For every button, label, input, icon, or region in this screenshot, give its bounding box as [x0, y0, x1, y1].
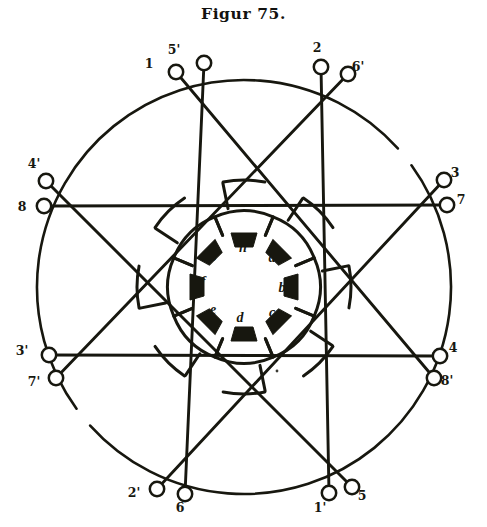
terminal-post[interactable] [150, 482, 164, 496]
pole-label: g [210, 246, 218, 261]
chord-line [44, 205, 447, 206]
chord-line [49, 355, 440, 356]
terminal-label: 8 [18, 199, 27, 214]
chord-line [321, 67, 329, 493]
coil-spoke [311, 331, 333, 345]
coil-spoke [185, 354, 199, 376]
terminal-post[interactable] [433, 349, 447, 363]
armature-winding-diagram: 15'26'4'8373'7'48'2'61'5habcdefg [0, 0, 487, 527]
terminal-label: 6 [176, 500, 185, 515]
pole-label: e [210, 302, 216, 317]
terminal-post[interactable] [437, 173, 451, 187]
pole-shoe [263, 240, 291, 268]
terminal-label: 3 [451, 165, 460, 180]
chord-lines [44, 63, 447, 494]
terminal-post[interactable] [440, 198, 454, 212]
pole-shoe [284, 274, 298, 300]
pole-label: c [269, 305, 276, 320]
pole-label: f [201, 274, 207, 289]
pole-label: b [279, 280, 286, 295]
coil-connection-arc [303, 346, 333, 376]
coil-connection-arc [303, 198, 333, 228]
terminal-post[interactable] [49, 371, 63, 385]
coil-lobe [296, 258, 321, 316]
terminal-label: 7' [28, 374, 41, 389]
terminal-post[interactable] [37, 199, 51, 213]
pole-shoe [231, 327, 257, 341]
terminal-post[interactable] [427, 371, 441, 385]
coil-lobe [215, 339, 273, 364]
terminal-label: 6' [352, 59, 365, 74]
figure-root: Figur 75. 15'26'4'8373'7'48'2'61'5habcde… [0, 0, 487, 527]
terminal-label: 4 [449, 340, 458, 355]
ink-speck [276, 370, 279, 373]
outer-circle [37, 80, 451, 494]
terminal-label: 5' [168, 42, 181, 57]
coil-lobe [215, 210, 273, 235]
coil-connection-arc [137, 266, 139, 308]
pole-label: h [239, 240, 247, 255]
terminal-label: 2' [128, 485, 141, 500]
pole-label: d [237, 310, 245, 325]
coil-spoke [156, 228, 178, 242]
terminal-post[interactable] [314, 60, 328, 74]
label-layer: 15'26'4'8373'7'48'2'61'5habcdefg [16, 40, 466, 515]
terminal-label: 3' [16, 343, 29, 358]
terminal-post[interactable] [197, 56, 211, 70]
terminal-label: 8' [441, 373, 454, 388]
terminal-label: 2 [313, 40, 322, 55]
terminal-post[interactable] [322, 486, 336, 500]
terminal-label: 1 [145, 56, 154, 71]
coil-spoke [140, 303, 165, 308]
coil-connection-arc [349, 266, 351, 308]
terminal-post[interactable] [39, 174, 53, 188]
terminal-label: 4' [28, 156, 41, 171]
coil-lobe [167, 258, 192, 316]
terminal-post[interactable] [169, 65, 183, 79]
coil-connection-arc [223, 392, 265, 394]
terminal-post[interactable] [42, 348, 56, 362]
coil-connection-arc [155, 198, 185, 228]
pole-shoe [263, 306, 291, 334]
coil-connection-arc [155, 346, 185, 376]
pole-label: a [269, 250, 276, 265]
armature-coil-lobes [137, 180, 351, 394]
terminal-label: 5 [358, 488, 367, 503]
terminal-label: 1' [314, 500, 327, 515]
terminal-label: 7 [457, 192, 466, 207]
